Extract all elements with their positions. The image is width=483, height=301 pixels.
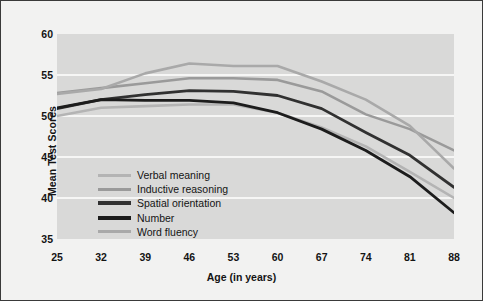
- y-tick-label: 40: [27, 192, 53, 204]
- x-tick-label: 25: [42, 251, 72, 263]
- y-tick-label: 35: [27, 233, 53, 245]
- x-tick-label: 46: [174, 251, 204, 263]
- legend-swatch: [98, 188, 131, 191]
- legend-label: Verbal meaning: [137, 169, 210, 181]
- x-tick-label: 67: [307, 251, 337, 263]
- y-tick-label: 60: [27, 28, 53, 40]
- x-tick-label: 53: [218, 251, 248, 263]
- x-axis-title: Age (in years): [1, 271, 482, 283]
- y-tick-label: 45: [27, 151, 53, 163]
- series-line: [57, 78, 454, 150]
- legend-swatch: [98, 230, 131, 233]
- legend-item: Inductive reasoning: [98, 183, 228, 195]
- legend-label: Word fluency: [137, 226, 198, 238]
- chart-figure: Mean Test Scores 354045505560 Verbal mea…: [0, 0, 483, 301]
- legend-label: Inductive reasoning: [137, 183, 228, 195]
- y-tick-label: 50: [27, 110, 53, 122]
- legend-swatch: [98, 201, 131, 205]
- x-tick-label: 60: [263, 251, 293, 263]
- x-tick-label: 88: [439, 251, 469, 263]
- legend-item: Number: [98, 212, 228, 224]
- x-tick-label: 32: [86, 251, 116, 263]
- legend-item: Word fluency: [98, 226, 228, 238]
- x-tick-label: 81: [395, 251, 425, 263]
- x-tick-label: 39: [130, 251, 160, 263]
- legend-item: Spatial orientation: [98, 197, 228, 209]
- legend-swatch: [98, 174, 131, 177]
- legend-item: Verbal meaning: [98, 169, 228, 181]
- legend-label: Number: [137, 212, 174, 224]
- chart-legend: Verbal meaningInductive reasoningSpatial…: [98, 169, 228, 238]
- legend-label: Spatial orientation: [137, 197, 221, 209]
- y-tick-label: 55: [27, 69, 53, 81]
- x-axis-tick-labels: 25323946536067748188: [1, 251, 483, 271]
- x-tick-label: 74: [351, 251, 381, 263]
- legend-swatch: [98, 216, 131, 220]
